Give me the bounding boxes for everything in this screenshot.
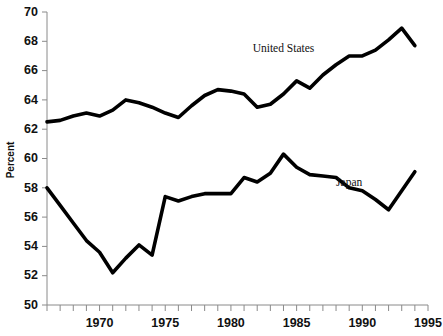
series-annotations: United StatesJapan: [253, 42, 363, 190]
x-tick-label: 1990: [348, 316, 376, 330]
series-line-united-states: [47, 28, 415, 122]
chart-svg: 5052545658606264666870 19701975198019851…: [0, 0, 443, 336]
series-label-united-states: United States: [253, 42, 315, 54]
y-tick-label: 70: [24, 5, 38, 19]
y-tick-label: 68: [24, 34, 38, 48]
y-tick-label: 54: [24, 239, 38, 253]
y-tick-label: 60: [24, 151, 38, 165]
series-lines: [47, 28, 415, 273]
x-tick-label: 1985: [283, 316, 311, 330]
x-axis-ticks: 197019751980198519901995: [47, 305, 442, 330]
y-tick-label: 64: [24, 93, 38, 107]
y-tick-label: 58: [24, 181, 38, 195]
x-tick-label: 1975: [151, 316, 179, 330]
y-tick-label: 52: [24, 268, 38, 282]
series-label-japan: Japan: [336, 176, 362, 189]
x-tick-label: 1970: [86, 316, 114, 330]
y-tick-label: 50: [24, 298, 38, 312]
series-line-japan: [47, 154, 415, 273]
y-axis-ticks: 5052545658606264666870: [24, 5, 47, 312]
y-axis-title: Percent: [5, 141, 16, 178]
x-tick-label: 1995: [414, 316, 442, 330]
y-tick-label: 66: [24, 63, 38, 77]
line-chart: 5052545658606264666870 19701975198019851…: [0, 0, 443, 336]
y-tick-label: 56: [24, 210, 38, 224]
x-tick-label: 1980: [217, 316, 245, 330]
y-tick-label: 62: [24, 122, 38, 136]
